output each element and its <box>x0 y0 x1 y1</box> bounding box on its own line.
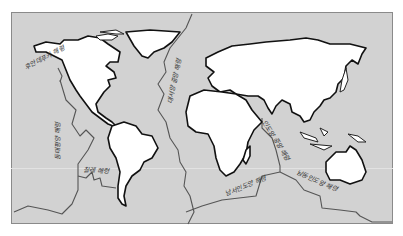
australia <box>326 146 366 184</box>
label-mid-atlantic: 대서양 중앙 해령 <box>166 57 184 105</box>
world-map: 후안데푸카 해령 동태평양 해령 칠레 해령 대서양 중앙 해령 인도양 중앙 … <box>0 0 403 236</box>
new-guinea <box>348 134 366 142</box>
label-east-pacific: 동태평양 해령 <box>54 121 62 160</box>
south-america <box>108 122 158 206</box>
label-southwest-indian: 남서인도양 해령 <box>224 174 269 198</box>
label-central-indian: 인도양 중앙 해령 <box>260 119 292 163</box>
africa <box>186 90 262 176</box>
indonesia <box>300 128 332 150</box>
juan-de-fuca-ridge <box>58 68 62 82</box>
greenland <box>126 30 180 58</box>
north-america <box>34 36 120 128</box>
label-chile: 칠레 해령 <box>83 166 111 176</box>
arctic-islands <box>96 30 124 40</box>
